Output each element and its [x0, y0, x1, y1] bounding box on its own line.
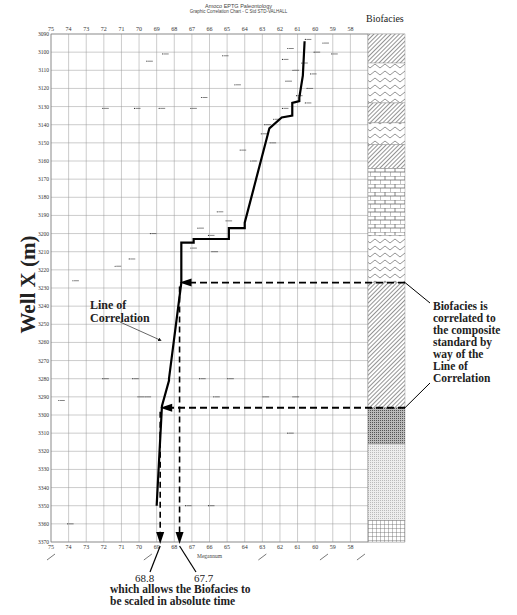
y-tick-label: 3150 — [38, 140, 49, 146]
x-tick-label-top: 75 — [48, 26, 54, 32]
x-tick-label-bottom: 64 — [242, 544, 248, 550]
x-tick-label-top: 68 — [171, 26, 177, 32]
y-tick-label: 3160 — [38, 158, 49, 164]
x-tick-label-bottom: 66 — [207, 544, 213, 550]
loc-label-line1: Line of — [90, 299, 150, 312]
x-tick-label-bottom: 61 — [295, 544, 301, 550]
y-tick-label: 3110 — [38, 67, 49, 73]
bottom-line1: which allows the Biofacies to — [110, 583, 251, 595]
loc-label-line2: Correlation — [90, 312, 150, 325]
biofacies-unit-wavy — [368, 123, 405, 145]
x-tick-label-bottom: 75 — [48, 544, 54, 550]
x-axis-label: Megannum — [197, 553, 222, 559]
x-tick-label-top: 64 — [242, 26, 248, 32]
y-tick-label: 3100 — [38, 49, 49, 55]
ann-line: Line of — [433, 360, 517, 372]
biofacies-unit-diagonal-hatch — [368, 145, 405, 169]
x-tick-label-top: 60 — [312, 26, 318, 32]
y-tick-label: 3280 — [38, 376, 49, 382]
x-tick-label-bottom: 70 — [136, 544, 142, 550]
line-of-correlation — [120, 41, 305, 505]
x-tick-label-bottom: 59 — [330, 544, 336, 550]
biofacies-unit-wavy — [368, 235, 405, 282]
ann-line: Biofacies is — [433, 300, 517, 312]
x-tick-label-top: 62 — [277, 26, 283, 32]
x-tick-label-top: 66 — [207, 26, 213, 32]
y-tick-label: 3290 — [38, 394, 49, 400]
biofacies-unit-diagonal-hatch — [368, 103, 405, 123]
x-tick-label-bottom: 73 — [83, 544, 89, 550]
x-tick-label-top: 69 — [154, 26, 160, 32]
x-tick-label-bottom: 58 — [347, 544, 353, 550]
bottom-line2: be scaled in absolute time — [110, 595, 251, 607]
ann-line: correlated to — [433, 312, 517, 324]
x-tick-label-top: 71 — [118, 26, 124, 32]
biofacies-title: Biofacies — [366, 13, 404, 24]
x-tick-label-top: 67 — [189, 26, 195, 32]
y-tick-label: 3270 — [38, 358, 49, 364]
ann-line: standard by — [433, 336, 517, 348]
y-tick-label: 3360 — [38, 521, 49, 527]
x-tick-label-top: 73 — [83, 26, 89, 32]
x-tick-label-bottom: 67 — [189, 544, 195, 550]
x-tick-label-bottom: 74 — [66, 544, 72, 550]
chart-header-subtitle: Graphic Correlation Chart - C Std STD-VA… — [0, 9, 497, 14]
biofacies-unit-dense-dots — [368, 408, 405, 444]
x-tick-label-bottom: 72 — [101, 544, 107, 550]
x-tick-label-top: 58 — [347, 26, 353, 32]
y-tick-label: 3170 — [38, 176, 49, 182]
x-tick-label-top: 74 — [66, 26, 72, 32]
x-tick-label-bottom: 63 — [259, 544, 265, 550]
biofacies-annotation: Biofacies is correlated to the composite… — [433, 300, 517, 384]
biofacies-unit-wavy — [368, 63, 405, 103]
x-tick-label-bottom: 71 — [118, 544, 124, 550]
y-axis-label: Well X (m) — [16, 235, 41, 335]
ann-line: Correlation — [433, 372, 517, 384]
biofacies-unit-light-dots — [368, 444, 405, 520]
ann-line: way of the — [433, 348, 517, 360]
y-tick-label: 3350 — [38, 503, 49, 509]
y-tick-label: 3180 — [38, 194, 49, 200]
y-tick-label: 3330 — [38, 466, 49, 472]
y-tick-label: 3190 — [38, 212, 49, 218]
y-tick-label: 3320 — [38, 448, 49, 454]
x-tick-label-top: 70 — [136, 26, 142, 32]
biofacies-unit-diagonal-hatch — [368, 34, 405, 63]
y-tick-label: 3260 — [38, 339, 49, 345]
y-tick-label: 3140 — [38, 122, 49, 128]
biofacies-unit-diagonal-hatch — [368, 283, 405, 408]
x-tick-label-top: 72 — [101, 26, 107, 32]
plot-grid: 3090310031103120313031403150316031703180… — [38, 26, 405, 560]
y-tick-label: 3120 — [38, 85, 49, 91]
x-tick-label-top: 63 — [259, 26, 265, 32]
bottom-annotation: which allows the Biofacies to be scaled … — [110, 583, 251, 607]
biofacies-unit-grid — [368, 520, 405, 542]
x-tick-label-bottom: 60 — [312, 544, 318, 550]
y-tick-label: 3340 — [38, 485, 49, 491]
biofacies-unit-brick — [368, 168, 405, 235]
y-tick-label: 3310 — [38, 430, 49, 436]
ann-line: the composite — [433, 324, 517, 336]
x-tick-label-top: 65 — [224, 26, 230, 32]
y-tick-label: 3300 — [38, 412, 49, 418]
biofacies-column — [368, 34, 405, 542]
x-tick-label-top: 59 — [330, 26, 336, 32]
x-tick-label-top: 61 — [295, 26, 301, 32]
x-tick-label-bottom: 65 — [224, 544, 230, 550]
y-tick-label: 3130 — [38, 104, 49, 110]
line-of-correlation-label: Line of Correlation — [90, 299, 150, 324]
x-tick-label-bottom: 68 — [171, 544, 177, 550]
x-tick-label-bottom: 62 — [277, 544, 283, 550]
